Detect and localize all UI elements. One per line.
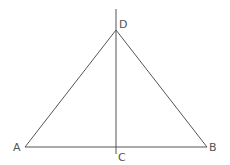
label-B: B <box>209 141 217 154</box>
label-A: A <box>13 141 21 154</box>
label-D: D <box>119 18 127 31</box>
segment-BD <box>116 30 207 147</box>
geometry-diagram: D A B C <box>0 0 230 165</box>
diagram-svg: D A B C <box>0 0 230 165</box>
label-C: C <box>118 151 126 164</box>
segment-AD <box>25 30 116 147</box>
